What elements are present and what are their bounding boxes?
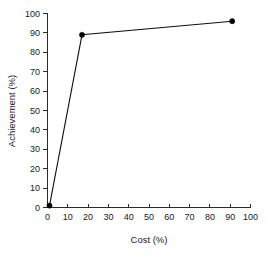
y-tick-label: 100 [25, 9, 40, 19]
x-tick-label: 70 [185, 212, 195, 222]
x-axis-title: Cost (%) [131, 234, 168, 245]
x-tick-label: 30 [103, 212, 113, 222]
x-tick-label: 90 [225, 212, 235, 222]
x-tick-label: 50 [144, 212, 154, 222]
x-tick-label: 80 [205, 212, 215, 222]
x-tick-label: 10 [63, 212, 73, 222]
x-tick-label: 60 [164, 212, 174, 222]
line-chart: 0 10 20 30 40 50 60 70 80 90 100 [0, 0, 269, 257]
y-tick-label: 90 [30, 28, 40, 38]
y-tick-label: 70 [30, 67, 40, 77]
data-point-marker [79, 32, 84, 37]
x-tick-label: 0 [45, 212, 50, 222]
y-tick-label: 10 [30, 183, 40, 193]
y-tick-label: 50 [30, 106, 40, 116]
chart-figure: 0 10 20 30 40 50 60 70 80 90 100 [0, 0, 269, 257]
y-tick-label: 60 [30, 86, 40, 96]
data-point-marker [230, 19, 235, 24]
y-tick-label: 30 [30, 144, 40, 154]
y-tick-label: 0 [35, 203, 40, 213]
x-tick-label: 100 [243, 212, 258, 222]
y-axis-title: Achievement (%) [6, 75, 17, 147]
data-point-marker [47, 203, 52, 208]
x-tick-label: 40 [124, 212, 134, 222]
y-tick-label: 80 [30, 47, 40, 57]
y-tick-label: 20 [30, 164, 40, 174]
y-tick-label: 40 [30, 125, 40, 135]
x-tick-label: 20 [83, 212, 93, 222]
